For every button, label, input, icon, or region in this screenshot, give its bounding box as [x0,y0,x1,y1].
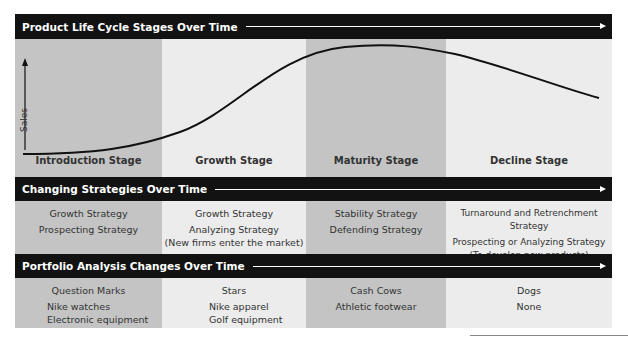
portfolio-header-title: Portfolio Analysis Changes Over Time [15,260,245,272]
product-life-cycle-diagram: Product Life Cycle Stages Over Time Sale… [15,14,612,328]
portfolio-category: Cash Cows [306,284,446,297]
strategy-line: Stability Strategy [306,207,446,220]
strategy-note: (New firms enter the market) [162,236,306,249]
strategy-maturity: Stability Strategy Defending Strategy [306,207,446,236]
stage-label-growth: Growth Stage [162,155,306,166]
strategy-line: Analyzing Strategy [162,223,306,236]
strategies-header-title: Changing Strategies Over Time [15,183,207,195]
portfolio-maturity: Cash Cows Athletic footwear [306,284,446,313]
sales-axis-label: Sales [19,108,29,132]
strategy-growth: Growth Strategy Analyzing Strategy (New … [162,207,306,249]
stage-label-introduction: Introduction Stage [15,155,162,166]
strategies-header: Changing Strategies Over Time [15,177,612,201]
stage-label-decline: Decline Stage [446,155,612,166]
strategy-line: Growth Strategy [15,207,162,220]
portfolio-decline: Dogs None [446,284,612,313]
portfolio-category: Question Marks [15,284,162,297]
portfolio-item: Nike apparel [162,300,306,313]
portfolio-introduction: Question Marks Nike watches Electronic e… [15,284,162,326]
strategy-line: Growth Strategy [162,207,306,220]
strategy-line: Turnaround and Retrenchment Strategy [446,207,612,233]
strategy-line: Prospecting Strategy [15,223,162,236]
portfolio-item: Athletic footwear [306,300,446,313]
portfolio-item: None [446,300,612,313]
arrow-right-icon [253,266,604,267]
portfolio-item: Electronic equipment [15,313,162,326]
portfolio-category: Dogs [446,284,612,297]
arrow-right-icon [215,189,604,190]
portfolio-growth: Stars Nike apparel Golf equipment [162,284,306,326]
divider-rule [470,335,628,336]
portfolio-header: Portfolio Analysis Changes Over Time [15,254,612,278]
stage-label-maturity: Maturity Stage [306,155,446,166]
sales-curve [15,14,612,174]
portfolio-category: Stars [162,284,306,297]
portfolio-item: Golf equipment [162,313,306,326]
strategy-introduction: Growth Strategy Prospecting Strategy [15,207,162,236]
portfolio-item: Nike watches [15,300,162,313]
strategy-line: Defending Strategy [306,223,446,236]
strategy-line: Prospecting or Analyzing Strategy [446,236,612,249]
